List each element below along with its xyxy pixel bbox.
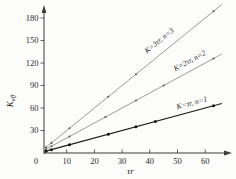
series-marker-K=3tr-n=3 [68, 127, 70, 129]
series-marker-K=tr-n=1 [44, 150, 47, 153]
y-tick-label: 90 [30, 80, 39, 90]
series-marker-K=3tr-n=3 [212, 10, 214, 12]
y-tick-label: 180 [26, 13, 39, 23]
chart-canvas: 1020304050603060901201501800τrKeffK=3τr,… [0, 0, 236, 179]
series-marker-K=3tr-n=3 [135, 73, 137, 75]
series-marker-K=tr-n=1 [68, 143, 71, 146]
x-tick-label: 30 [118, 156, 127, 166]
y-axis-title: Keff [5, 94, 16, 109]
series-marker-K=3tr-n=3 [107, 96, 109, 98]
series-marker-K=tr-n=1 [134, 125, 137, 128]
series-marker-K=2tr-n=2 [135, 99, 137, 101]
y-tick-label: 30 [30, 125, 39, 135]
series-marker-K=2tr-n=2 [68, 135, 70, 137]
series-marker-K=tr-n=1 [154, 120, 157, 123]
line-chart-figure: 1020304050603060901201501800τrKeffK=3τr,… [0, 0, 236, 179]
series-label-K=3tr-n=3: K=3τr, n=3 [142, 26, 176, 56]
series-marker-K=tr-n=1 [107, 133, 110, 136]
series-marker-K=tr-n=1 [50, 148, 53, 151]
series-marker-K=2tr-n=2 [50, 145, 52, 147]
x-tick-label: 60 [201, 156, 210, 166]
x-tick-label: 40 [146, 156, 155, 166]
series-marker-K=tr-n=1 [212, 104, 215, 107]
x-tick-label: 20 [90, 156, 99, 166]
x-axis-title: τr [127, 166, 134, 176]
series-marker-K=3tr-n=3 [45, 146, 47, 148]
origin-label: 0 [34, 156, 38, 166]
y-axis-arrow [42, 5, 47, 13]
series-marker-K=2tr-n=2 [104, 116, 106, 118]
series-marker-K=2tr-n=2 [212, 57, 214, 59]
x-tick-label: 50 [173, 156, 182, 166]
series-line-K=3tr-n=3 [46, 5, 222, 148]
y-tick-label: 60 [30, 103, 39, 113]
series-marker-K=2tr-n=2 [163, 84, 165, 86]
series-marker-K=3tr-n=3 [50, 142, 52, 144]
x-tick-label: 10 [62, 156, 71, 166]
y-tick-label: 120 [26, 58, 39, 68]
y-tick-label: 150 [26, 35, 39, 45]
series-label-K=2tr-n=2: K=2τr, n=2 [171, 48, 207, 73]
x-axis-arrow [224, 150, 232, 155]
series-line-K=tr-n=1 [46, 104, 222, 152]
